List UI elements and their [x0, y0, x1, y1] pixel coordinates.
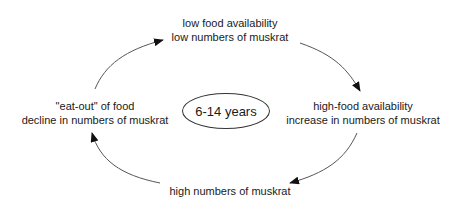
node-left-line1: "eat-out" of food [0, 99, 190, 113]
muskrat-population-cycle-diagram: low food availability low numbers of mus… [0, 0, 457, 212]
node-bottom-line1: high numbers of muskrat [130, 184, 330, 198]
node-high-numbers-of-muskrat: high numbers of muskrat [130, 184, 330, 198]
node-left-line2: decline in numbers of muskrat [0, 113, 190, 127]
cycle-period-label: 6-14 years [195, 104, 256, 119]
node-eat-out-of-food: "eat-out" of food decline in numbers of … [0, 99, 190, 127]
node-low-food-availability: low food availability low numbers of mus… [130, 16, 330, 44]
arrow-right-to-bottom [290, 133, 357, 183]
node-top-line1: low food availability [130, 16, 330, 30]
arrow-top-to-right [300, 43, 360, 91]
node-right-line1: high-food availability [268, 99, 457, 113]
node-high-food-availability: high-food availability increase in numbe… [268, 99, 457, 127]
node-right-line2: increase in numbers of muskrat [268, 113, 457, 127]
node-top-line2: low numbers of muskrat [130, 30, 330, 44]
arrow-left-to-top [95, 40, 163, 89]
cycle-period-ellipse: 6-14 years [182, 93, 270, 129]
arrow-bottom-to-left [92, 133, 160, 183]
